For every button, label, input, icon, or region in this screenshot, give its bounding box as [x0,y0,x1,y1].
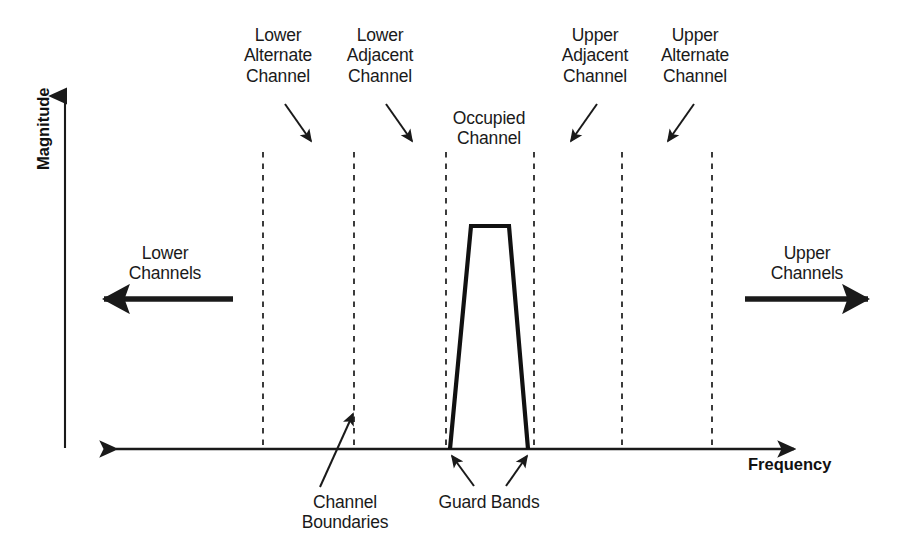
callout-arrow-guard-band-left [452,456,474,486]
spectrum-diagram: Magnitude Frequency Lower Alternate Chan… [0,0,900,553]
label-lower-channels: Lower Channels [95,243,235,284]
callout-arrow-upper-alternate [668,104,694,141]
callout-arrows [285,104,694,487]
callout-arrow-lower-adjacent [386,104,412,141]
callout-arrow-lower-alternate [285,104,311,141]
label-guard-bands: Guard Bands [399,492,579,512]
label-upper-channels: Upper Channels [737,243,877,284]
x-axis-title: Frequency [748,455,831,474]
occupied-channel-spectrum [450,226,528,449]
label-upper-alternate-channel: Upper Alternate Channel [630,25,760,86]
label-occupied-channel: Occupied Channel [424,108,554,149]
spectrum-trapezoid [450,226,528,449]
label-lower-adjacent-channel: Lower Adjacent Channel [315,25,445,86]
callout-arrow-channel-boundaries [320,414,353,487]
callout-arrow-guard-band-right [506,456,527,486]
y-axis-title: Magnitude [34,88,53,171]
callout-arrow-upper-adjacent [571,104,597,141]
channel-boundary-lines [263,152,712,449]
